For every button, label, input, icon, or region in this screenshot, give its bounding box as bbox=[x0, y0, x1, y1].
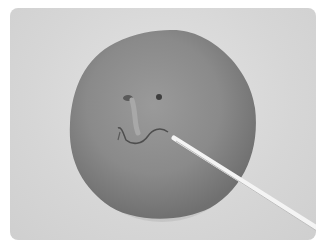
photo-illustration bbox=[10, 8, 316, 240]
right-eye bbox=[156, 94, 162, 100]
clay-disc bbox=[70, 30, 256, 219]
clay-face-photo bbox=[10, 8, 316, 240]
